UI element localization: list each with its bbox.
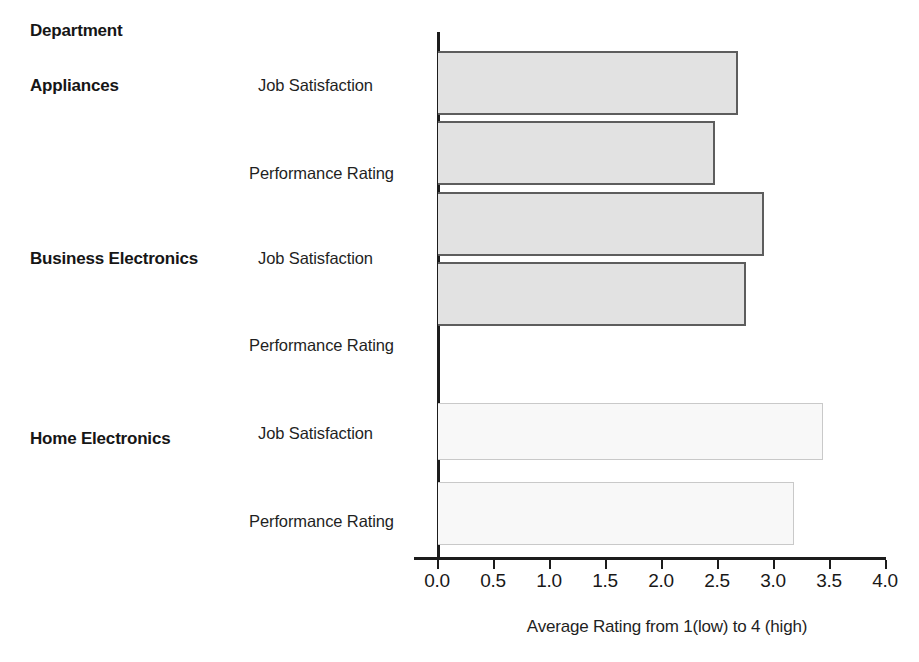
group-label-appliances: Appliances	[30, 77, 119, 94]
x-tick-mark-2	[549, 560, 551, 569]
category-label-home-electronics-performance-rating: Performance Rating	[249, 513, 394, 530]
category-label-appliances-job-satisfaction: Job Satisfaction	[258, 77, 373, 94]
x-tick-label-6: 3.0	[760, 570, 786, 592]
plot-area: 0.0 0.5 1.0 1.5 2.0 2.5 3.0 3.5 4.0	[437, 32, 887, 558]
x-tick-label-1: 0.5	[480, 570, 506, 592]
x-tick-label-4: 2.0	[648, 570, 674, 592]
category-label-home-electronics-job-satisfaction: Job Satisfaction	[258, 425, 373, 442]
x-tick-mark-1	[493, 560, 495, 569]
group-label-home-electronics: Home Electronics	[30, 430, 170, 447]
bar-business-electronics-job-satisfaction	[438, 192, 764, 256]
bar-home-electronics-job-satisfaction	[438, 403, 823, 460]
x-tick-mark-0	[437, 560, 439, 569]
x-tick-mark-4	[661, 560, 663, 569]
x-tick-label-7: 3.5	[816, 570, 842, 592]
axis-group-header: Department	[30, 22, 122, 39]
x-tick-mark-7	[829, 560, 831, 569]
x-tick-mark-8	[885, 560, 887, 569]
bar-appliances-performance-rating	[438, 121, 715, 185]
bar-appliances-job-satisfaction	[438, 51, 738, 115]
group-label-business-electronics: Business Electronics	[30, 250, 198, 267]
bar-business-electronics-performance-rating	[438, 262, 746, 326]
x-tick-label-2: 1.0	[536, 570, 562, 592]
x-tick-label-8: 4.0	[872, 570, 898, 592]
x-axis-title: Average Rating from 1(low) to 4 (high)	[437, 617, 897, 637]
x-tick-label-5: 2.5	[704, 570, 730, 592]
category-label-business-electronics-job-satisfaction: Job Satisfaction	[258, 250, 373, 267]
category-label-appliances-performance-rating: Performance Rating	[249, 165, 394, 182]
x-tick-mark-3	[605, 560, 607, 569]
category-label-business-electronics-performance-rating: Performance Rating	[249, 337, 394, 354]
x-tick-label-0: 0.0	[424, 570, 450, 592]
x-axis-line	[414, 557, 886, 560]
x-tick-mark-5	[717, 560, 719, 569]
bar-home-electronics-performance-rating	[438, 482, 794, 545]
x-tick-label-3: 1.5	[592, 570, 618, 592]
horizontal-bar-chart: Department Appliances Business Electroni…	[0, 0, 919, 662]
x-tick-mark-6	[773, 560, 775, 569]
